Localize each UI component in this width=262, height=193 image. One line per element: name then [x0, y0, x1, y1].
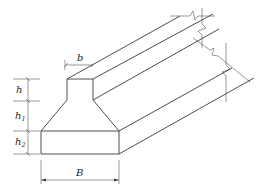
label-B: B	[75, 167, 83, 178]
front-face	[41, 79, 119, 154]
label-h: h	[16, 84, 22, 95]
break-lines	[170, 8, 250, 102]
dimension-heights: h h1 h2	[13, 77, 40, 156]
dimension-B: B	[41, 160, 119, 184]
label-h2: h2	[15, 136, 26, 149]
label-b: b	[77, 52, 83, 63]
dimension-b: b	[64, 52, 95, 70]
footing-diagram: b h h1 h2 B	[0, 0, 262, 193]
label-h1: h1	[15, 110, 26, 123]
footing-drawing: b h h1 h2 B	[0, 0, 262, 193]
